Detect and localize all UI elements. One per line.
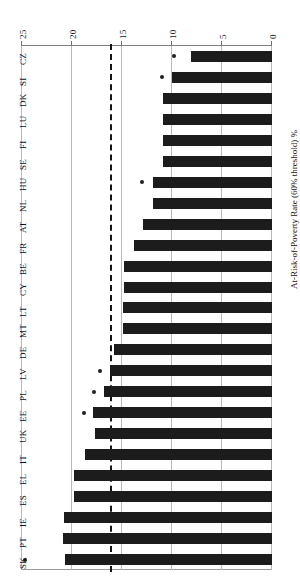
category-label: EE xyxy=(18,410,28,422)
category-label: NL xyxy=(18,200,28,213)
axis-tick xyxy=(171,41,172,46)
category-label: LU xyxy=(18,116,28,129)
category-label: MT xyxy=(18,324,28,338)
poverty-rate-bar-chart: At-Risk-of-Poverty Rate (60% threshold) … xyxy=(0,0,300,578)
category-label: CY xyxy=(18,283,28,296)
bar xyxy=(95,428,272,439)
bar xyxy=(143,219,272,230)
bar xyxy=(163,114,272,125)
category-label: IT xyxy=(18,455,28,464)
category-label: HU xyxy=(18,178,28,192)
category-label: PT xyxy=(18,536,28,547)
bar xyxy=(124,282,272,293)
asterisk-marker xyxy=(172,54,176,58)
axis-tick-label: 10 xyxy=(168,30,178,39)
category-label: BE xyxy=(18,263,28,275)
bar xyxy=(191,51,272,62)
axis-tick xyxy=(221,41,222,46)
axis-tick-label: 20 xyxy=(68,30,78,39)
axis-tick xyxy=(71,41,72,46)
axis-tick-label: 0 xyxy=(268,34,278,39)
bar xyxy=(163,93,272,104)
bar xyxy=(163,156,272,167)
category-label: FR xyxy=(18,243,28,255)
bar xyxy=(104,386,272,397)
axis-tick xyxy=(271,41,272,46)
bar xyxy=(123,323,272,334)
category-label: ES xyxy=(18,495,28,506)
asterisk-marker xyxy=(140,180,144,184)
axis-tick xyxy=(21,41,22,46)
asterisk-marker xyxy=(92,390,96,394)
category-label: UK xyxy=(18,429,28,443)
axis-tick xyxy=(121,41,122,46)
category-label: CZ xyxy=(18,53,28,65)
bar xyxy=(163,135,272,146)
asterisk-marker xyxy=(82,411,86,415)
bar xyxy=(65,554,272,565)
category-label: AT xyxy=(18,222,28,234)
bar xyxy=(110,365,272,376)
axis-tick-label: 25 xyxy=(18,30,28,39)
asterisk-marker xyxy=(98,369,102,373)
category-label: LT xyxy=(18,306,28,317)
category-label: IE xyxy=(18,518,28,527)
value-axis-title-area: At-Risk-of-Poverty Rate (60% threshold) … xyxy=(278,0,300,578)
axis-tick-label: 15 xyxy=(118,30,128,39)
plot-area: 0510152025 SKPTIEESELITUKEEPLLVDEMTLTCYB… xyxy=(22,46,272,570)
category-label: DE xyxy=(18,346,28,359)
category-label: SE xyxy=(18,159,28,170)
bar xyxy=(63,533,272,544)
value-axis-title: At-Risk-of-Poverty Rate (60% threshold) … xyxy=(289,130,299,289)
bar xyxy=(153,198,272,209)
bar xyxy=(153,177,272,188)
bar xyxy=(114,344,272,355)
axis-tick-label: 5 xyxy=(218,34,228,39)
bar xyxy=(64,512,272,523)
gridline xyxy=(71,46,72,570)
bar xyxy=(124,261,272,272)
axis-line-top xyxy=(22,569,272,570)
category-label: PL xyxy=(18,390,28,401)
category-label: EL xyxy=(18,473,28,485)
bar xyxy=(172,72,272,83)
category-label: FI xyxy=(18,141,28,150)
bar xyxy=(74,470,272,481)
category-label: LV xyxy=(18,368,28,380)
bar xyxy=(74,491,272,502)
bar xyxy=(134,240,272,251)
category-label: SK xyxy=(18,556,28,568)
bar xyxy=(85,449,272,460)
bar xyxy=(123,303,272,314)
bar xyxy=(93,407,272,418)
asterisk-marker xyxy=(160,75,164,79)
axis-line-bottom xyxy=(22,45,272,46)
category-label: DK xyxy=(18,94,28,108)
category-label: SI xyxy=(18,78,28,87)
